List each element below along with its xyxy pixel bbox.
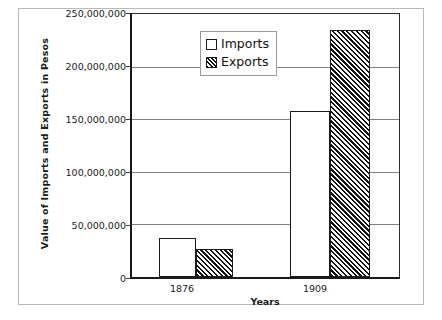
plot-area: Imports Exports: [130, 13, 400, 279]
hatched-square-swatch-icon: [206, 57, 217, 68]
open-square-swatch-icon: [206, 39, 217, 50]
y-tick-label-0: 0: [18, 273, 126, 284]
bar-exports-1876: [196, 249, 233, 277]
x-axis-title: Years: [130, 296, 400, 307]
bar-imports-1909: [290, 111, 330, 277]
x-tick-label-1909: 1909: [275, 283, 355, 294]
legend-item-exports: Exports: [206, 53, 269, 71]
x-tick-label-1876: 1876: [142, 283, 222, 294]
y-tick-label-100m: 100,000,000: [18, 167, 126, 178]
y-tick-label-200m: 200,000,000: [18, 61, 126, 72]
y-tick-label-150m: 150,000,000: [18, 114, 126, 125]
legend-item-imports: Imports: [206, 35, 269, 53]
y-tick-label-50m: 50,000,000: [18, 220, 126, 231]
legend-label-exports: Exports: [221, 55, 268, 69]
bar-chart-figure: Value of Imports and Exports in Pesos 25…: [0, 0, 442, 320]
chart-legend: Imports Exports: [200, 31, 277, 76]
legend-label-imports: Imports: [221, 37, 269, 51]
y-tick-label-250m: 250,000,000: [18, 8, 126, 19]
bar-exports-1909: [330, 30, 370, 277]
bar-imports-1876: [159, 238, 196, 277]
